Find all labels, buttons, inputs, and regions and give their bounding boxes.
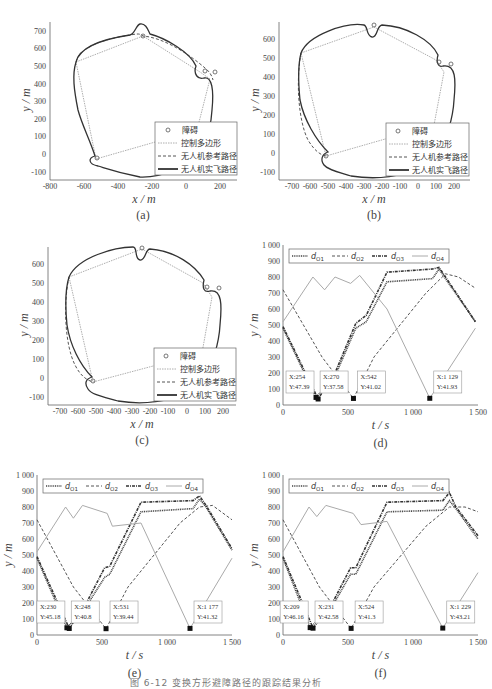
svg-text:0: 0 [40, 374, 44, 383]
path-chart-a: 700 600 500 400 300 200 100 0 -100 -800 … [0, 0, 246, 225]
svg-text:Y:40.8: Y:40.8 [74, 613, 91, 620]
svg-text:-400: -400 [107, 407, 122, 416]
svg-text:0: 0 [185, 407, 189, 416]
legend-reference: 无人机参考路径 [412, 152, 468, 162]
svg-text:700: 700 [34, 27, 46, 36]
svg-text:-800: -800 [43, 182, 58, 191]
panel-a: 700 600 500 400 300 200 100 0 -100 -800 … [0, 0, 246, 225]
svg-text:500: 500 [32, 279, 44, 288]
svg-text:100: 100 [263, 130, 275, 139]
svg-text:600: 600 [32, 260, 44, 269]
svg-text:300: 300 [32, 317, 44, 326]
svg-text:0: 0 [42, 150, 46, 159]
figure-caption: 图 6-12 变换方形避障路径的跟踪结果分析 [130, 676, 322, 689]
svg-text:100: 100 [22, 615, 34, 624]
legend-actual: 无人机实飞路径 [181, 164, 237, 174]
svg-text:X:209: X:209 [283, 603, 299, 610]
svg-text:600: 600 [34, 44, 46, 53]
svg-text:Y:42.58: Y:42.58 [318, 613, 339, 620]
panel-b: 600 500 400 300 200 100 0 -100 -700 -600… [246, 0, 492, 225]
svg-text:500: 500 [268, 551, 280, 560]
svg-text:-200: -200 [143, 407, 158, 416]
svg-text:X:254: X:254 [289, 373, 306, 380]
panel-label: (b) [367, 208, 381, 222]
datatip: X:1 229Y:43.21 [440, 601, 475, 631]
legend: 障碍 控制多边形 无人机参考路径 无人机实飞路径 [155, 122, 237, 175]
svg-text:0: 0 [30, 631, 34, 640]
svg-text:X:248: X:248 [74, 603, 90, 610]
svg-text:700: 700 [268, 289, 280, 298]
svg-text:Y:43.21: Y:43.21 [450, 613, 471, 620]
svg-text:700: 700 [268, 519, 280, 528]
datatip: X:1 129Y:41.93 [427, 371, 462, 401]
svg-text:-600: -600 [303, 182, 318, 191]
y-ticks: 600 500 400 300 200 100 0 -100 [260, 35, 275, 177]
svg-text:Y:41.32: Y:41.32 [197, 613, 218, 620]
svg-text:X:524: X:524 [358, 603, 375, 610]
svg-text:700: 700 [22, 519, 34, 528]
svg-text:400: 400 [263, 73, 275, 82]
svg-text:Y:45.18: Y:45.18 [40, 613, 61, 620]
svg-text:900: 900 [268, 487, 280, 496]
legend: 障碍 控制多边形 无人机参考路径 无人机实飞路径 [386, 123, 469, 176]
svg-text:Y:46.16: Y:46.16 [283, 613, 304, 620]
svg-text:1 000: 1 000 [404, 638, 422, 647]
svg-text:X:1 177: X:1 177 [197, 603, 219, 610]
x-axis-label: t / s [372, 648, 390, 662]
y-axis-label: y / m [247, 313, 261, 338]
y-axis-label: y / m [17, 313, 31, 338]
svg-text:400: 400 [268, 567, 280, 576]
svg-text:400: 400 [32, 298, 44, 307]
svg-text:100: 100 [430, 182, 442, 191]
y-ticks: 600 500 400 300 200 100 0 -100 [29, 260, 44, 402]
svg-text:400: 400 [34, 80, 46, 89]
svg-text:500: 500 [263, 54, 275, 63]
legend: dO1dO2dO3dO4 [289, 249, 449, 263]
svg-text:1 500: 1 500 [469, 638, 487, 647]
svg-text:1 000: 1 000 [404, 408, 422, 417]
datatip: X:231Y:42.58 [311, 601, 344, 631]
svg-text:0: 0 [416, 182, 420, 191]
svg-text:300: 300 [34, 97, 46, 106]
svg-text:300: 300 [22, 583, 34, 592]
svg-text:Y:41.93: Y:41.93 [437, 383, 458, 390]
distance-chart-d: 01002003004005006007008009001 00005001 0… [246, 225, 492, 455]
panel-f: 01002003004005006007008009001 00005001 0… [246, 455, 492, 685]
panel-d: 01002003004005006007008009001 00005001 0… [246, 225, 492, 455]
datatip: X:209Y:46.16 [280, 601, 313, 630]
svg-text:1 500: 1 500 [223, 638, 241, 647]
panel-label: (a) [136, 208, 149, 222]
svg-text:1 000: 1 000 [158, 638, 176, 647]
svg-text:200: 200 [448, 182, 460, 191]
svg-text:500: 500 [342, 408, 354, 417]
distance-chart-f: 01002003004005006007008009001 00005001 0… [246, 455, 492, 685]
svg-text:-700: -700 [285, 182, 300, 191]
svg-text:Y:41.02: Y:41.02 [360, 383, 381, 390]
svg-text:-500: -500 [89, 407, 104, 416]
legend-obstacle: 障碍 [180, 351, 196, 361]
svg-text:0: 0 [281, 408, 285, 417]
svg-text:0: 0 [35, 638, 39, 647]
datatip: X:248Y:40.8 [67, 601, 100, 631]
legend-polygon: 控制多边形 [181, 138, 221, 148]
svg-text:200: 200 [268, 369, 280, 378]
svg-text:200: 200 [22, 599, 34, 608]
distance-chart-e: 01002003004005006007008009001 00005001 0… [0, 455, 246, 685]
svg-text:-600: -600 [71, 407, 86, 416]
svg-text:600: 600 [263, 35, 275, 44]
svg-text:300: 300 [268, 353, 280, 362]
y-axis-label: y / m [19, 88, 33, 113]
x-axis-label: x / m [129, 417, 154, 431]
svg-text:1 000: 1 000 [262, 471, 280, 480]
svg-text:X:230: X:230 [40, 603, 56, 610]
svg-text:500: 500 [342, 638, 354, 647]
svg-text:600: 600 [268, 535, 280, 544]
svg-text:-200: -200 [145, 182, 160, 191]
svg-text:-300: -300 [357, 182, 372, 191]
svg-text:800: 800 [22, 503, 34, 512]
x-ticks: -700 -600 -500 -400 -300 -200 -100 0 100… [285, 182, 460, 191]
svg-text:400: 400 [22, 567, 34, 576]
svg-text:0: 0 [276, 401, 280, 410]
svg-text:X:1 129: X:1 129 [437, 373, 458, 380]
svg-text:-400: -400 [339, 182, 354, 191]
